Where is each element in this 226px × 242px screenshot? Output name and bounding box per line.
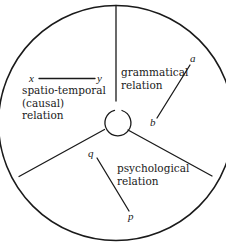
sector-label-line-2: relation — [117, 175, 159, 187]
term-y: y — [96, 72, 102, 84]
sector-label-line-3: relation — [22, 109, 64, 121]
term-a: a — [190, 52, 196, 64]
sector-psychological: q p psychological relation — [88, 147, 190, 222]
sector-grammatical: grammatical relation a b — [121, 52, 196, 128]
inner-hub-arc — [105, 110, 131, 136]
term-p: p — [127, 210, 134, 222]
sector-label-line-2: relation — [121, 79, 163, 91]
sector-label-line-2: (causal) — [22, 97, 64, 109]
sector-label-line-1: spatio-temporal — [22, 84, 107, 96]
term-q: q — [88, 147, 94, 159]
relations-diagram: x y spatio-temporal (causal) relation gr… — [0, 0, 226, 242]
term-x: x — [28, 72, 34, 84]
term-b: b — [150, 116, 156, 128]
outer-circle — [0, 6, 226, 241]
sector-spatio-temporal: x y spatio-temporal (causal) relation — [22, 72, 107, 121]
sector-label-line-1: grammatical — [121, 66, 189, 78]
sector-label-line-1: psychological — [117, 162, 190, 174]
